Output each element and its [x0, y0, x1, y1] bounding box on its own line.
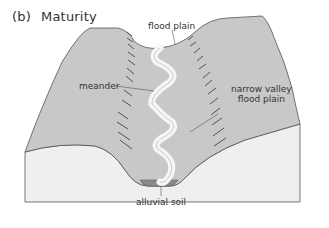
label-flood-plain-top: flood plain — [148, 21, 195, 31]
label-narrow-valley: narrow valley flood plain — [231, 84, 292, 104]
flood-plain-leader — [172, 30, 175, 44]
label-narrow-valley-line2: flood plain — [231, 94, 292, 104]
label-narrow-valley-line1: narrow valley — [231, 84, 292, 94]
label-meander: meander — [79, 81, 119, 91]
figure-title: (b)Maturity — [12, 9, 97, 24]
figure-part-label: (b) — [12, 9, 31, 24]
figure-title-text: Maturity — [41, 9, 97, 24]
valley-block-illustration — [0, 0, 329, 228]
label-alluvial-soil: alluvial soil — [136, 197, 186, 207]
